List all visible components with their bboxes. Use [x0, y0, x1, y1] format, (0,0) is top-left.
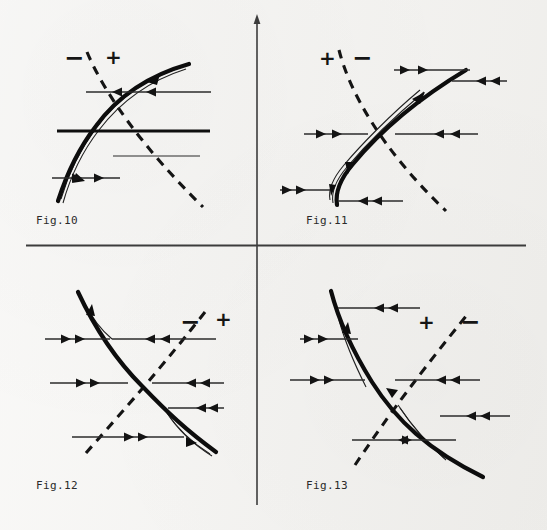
fig12-flow-line-4: [152, 379, 224, 388]
fig11-solid-nullcline: [337, 70, 466, 205]
fig13-sign-minus: −: [460, 310, 480, 334]
fig12-flow-line-6: [72, 433, 184, 442]
fig13-flow-line-1: [338, 304, 420, 313]
fig13-flow-line-3: [290, 376, 365, 385]
fig10-trajectory-ghost-2: [63, 69, 186, 203]
fig13-sign-plus: +: [418, 312, 435, 332]
fig12-flow-line-3: [50, 379, 128, 388]
fig13-flow-line-4: [395, 376, 480, 385]
vertical-divider-arrow-tip: [254, 14, 261, 24]
fig13-flow-line-6: [352, 436, 456, 445]
figure-page: − + + − − + + − Fig.10 Fig.11 Fig.12 Fig…: [0, 0, 547, 530]
figure-fig11: [280, 50, 507, 211]
fig11-flow-line-5: [280, 186, 330, 195]
fig12-sign-minus: −: [180, 310, 200, 334]
fig13-curve-arrow-lower: [386, 388, 398, 398]
figure-fig10: [52, 52, 211, 207]
figure-drawing-layer: [0, 0, 547, 530]
fig13-flow-line-5: [440, 412, 510, 421]
fig12-caption: Fig.12: [36, 479, 78, 492]
fig11-flow-line-3: [304, 130, 368, 139]
fig10-sign-plus: +: [105, 47, 122, 67]
fig11-sign-minus: −: [352, 46, 372, 70]
fig10-sign-minus: −: [64, 46, 84, 70]
fig10-dashed-nullcline: [87, 52, 203, 207]
fig13-dashed-nullcline: [355, 315, 467, 465]
fig11-dashed-nullcline: [339, 50, 446, 211]
fig11-flow-line-6: [338, 197, 403, 206]
fig10-caption: Fig.10: [36, 214, 78, 227]
fig11-caption: Fig.11: [306, 214, 348, 227]
fig12-flow-line-5: [168, 404, 224, 413]
fig11-flow-line-2: [452, 77, 507, 86]
fig12-flow-line-2: [112, 335, 216, 344]
fig10-flow-line-4: [52, 174, 120, 183]
fig13-caption: Fig.13: [306, 479, 348, 492]
fig12-sign-plus: +: [215, 309, 232, 329]
fig11-sign-plus: +: [319, 48, 336, 68]
divider-crosshair: [26, 14, 526, 505]
fig11-flow-line-4: [395, 130, 478, 139]
